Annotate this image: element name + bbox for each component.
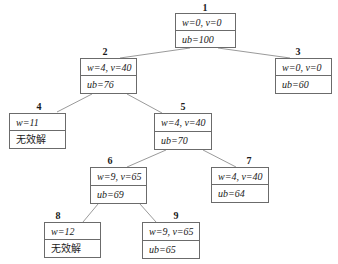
node-1-state: w=0, v=0 (176, 14, 235, 31)
node-6: w=9, v=65 ub=69 (90, 167, 147, 204)
node-9-state: w=9, v=65 (143, 223, 199, 241)
node-2-state: w=4, v=40 (81, 59, 136, 76)
edge-2-5 (127, 94, 162, 113)
edge-1-3 (218, 48, 290, 58)
node-6-label: 6 (100, 156, 120, 166)
node-3-label: 3 (288, 47, 308, 57)
node-5-bound: ub=70 (155, 132, 211, 150)
node-5-label: 5 (173, 102, 193, 112)
node-4-infeasible: 无效解 (10, 131, 65, 148)
node-4: w=11 无效解 (9, 113, 66, 149)
node-8: w=12 无效解 (44, 222, 101, 258)
node-6-bound: ub=69 (91, 186, 146, 204)
node-8-infeasible: 无效解 (45, 240, 100, 257)
edge-5-7 (203, 150, 236, 167)
node-7-state: w=4, v=40 (212, 168, 268, 185)
node-6-state: w=9, v=65 (91, 168, 146, 186)
node-1-bound: ub=100 (176, 31, 235, 48)
edge-5-6 (127, 150, 166, 167)
edge-6-8 (83, 204, 98, 222)
node-8-state: w=12 (45, 223, 100, 240)
node-7: w=4, v=40 ub=64 (211, 167, 269, 203)
node-3: w=0, v=0 ub=60 (275, 58, 332, 94)
edge-1-2 (120, 48, 190, 58)
node-3-bound: ub=60 (276, 76, 331, 93)
edge-2-4 (57, 94, 92, 112)
node-2-bound: ub=76 (81, 76, 136, 93)
node-1: w=0, v=0 ub=100 (175, 13, 236, 48)
node-7-bound: ub=64 (212, 185, 268, 202)
node-7-label: 7 (239, 156, 259, 166)
node-1-label: 1 (195, 3, 215, 13)
node-9: w=9, v=65 ub=65 (142, 222, 200, 259)
node-4-label: 4 (29, 102, 49, 112)
node-3-state: w=0, v=0 (276, 59, 331, 76)
node-8-label: 8 (48, 211, 68, 221)
edge-6-9 (140, 204, 156, 222)
branch-and-bound-tree: 1 w=0, v=0 ub=100 2 w=4, v=40 ub=76 3 w=… (0, 0, 338, 264)
node-2: w=4, v=40 ub=76 (80, 58, 137, 94)
node-9-bound: ub=65 (143, 241, 199, 259)
node-4-state: w=11 (10, 114, 65, 131)
node-2-label: 2 (95, 47, 115, 57)
node-5: w=4, v=40 ub=70 (154, 113, 212, 150)
node-9-label: 9 (166, 211, 186, 221)
node-5-state: w=4, v=40 (155, 114, 211, 132)
